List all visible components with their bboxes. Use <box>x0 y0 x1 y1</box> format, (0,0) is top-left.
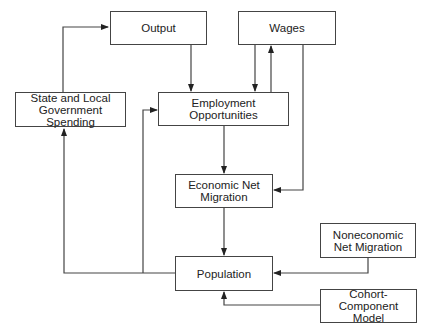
node-wages: Wages <box>238 11 336 45</box>
node-label: Wages <box>269 22 304 34</box>
node-label: Output <box>141 22 176 34</box>
node-employment-opportunities: Employment Opportunities <box>158 92 289 126</box>
node-label: Population <box>197 268 251 280</box>
node-state-local-spending: State and Local Government Spending <box>15 92 126 127</box>
node-label: Noneconomic Net Migration <box>325 229 411 253</box>
node-economic-net-migration: Economic Net Migration <box>175 174 273 208</box>
node-label: Cohort-Component Model <box>325 288 412 324</box>
node-label: Employment Opportunities <box>159 97 288 121</box>
node-label: Economic Net Migration <box>188 179 260 203</box>
node-label: State and Local Government Spending <box>20 92 121 128</box>
node-output: Output <box>110 11 207 45</box>
node-cohort-component-model: Cohort-Component Model <box>320 289 417 323</box>
node-noneconomic-net-migration: Noneconomic Net Migration <box>320 223 416 258</box>
node-population: Population <box>175 256 273 291</box>
